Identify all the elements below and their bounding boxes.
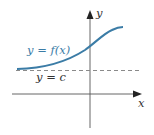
asymptote-diagram: y = f(x) y = c y x	[0, 0, 154, 135]
diagram-svg: y = f(x) y = c y x	[0, 0, 154, 135]
y-axis-label: y	[95, 6, 103, 20]
x-axis-label: x	[138, 96, 145, 110]
asymptote-label: y = c	[35, 70, 66, 84]
curve-label: y = f(x)	[26, 43, 70, 57]
y-axis-arrow-icon	[87, 10, 94, 19]
